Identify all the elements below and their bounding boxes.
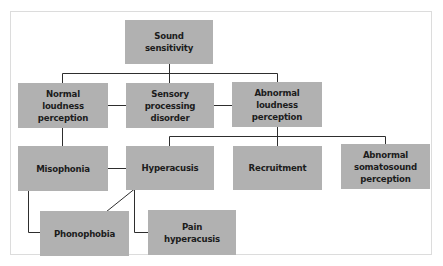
node-pain-hyperacusis: Pain hyperacusis — [148, 210, 236, 255]
node-label: Normal loudness perception — [38, 88, 88, 124]
node-label: Abnormal loudness perception — [252, 87, 302, 123]
node-normal-loudness-perception: Normal loudness perception — [18, 83, 108, 128]
node-label: Phonophobia — [54, 228, 115, 240]
node-sound-sensitivity: Sound sensitivity — [125, 20, 213, 64]
node-label: Recruitment — [249, 162, 307, 174]
node-misophonia: Misophonia — [18, 146, 108, 191]
node-recruitment: Recruitment — [233, 146, 322, 190]
node-abnormal-loudness-perception: Abnormal loudness perception — [232, 82, 322, 127]
node-hyperacusis: Hyperacusis — [126, 146, 214, 190]
node-sensory-processing-disorder: Sensory processing disorder — [126, 83, 214, 128]
node-label: Abnormal somatosound perception — [354, 149, 417, 185]
node-label: Sensory processing disorder — [145, 88, 196, 124]
node-phonophobia: Phonophobia — [40, 211, 129, 256]
node-label: Sound sensitivity — [145, 30, 193, 54]
node-label: Pain hyperacusis — [164, 221, 220, 245]
node-abnormal-somatosound-perception: Abnormal somatosound perception — [341, 144, 430, 189]
node-label: Misophonia — [36, 163, 90, 175]
node-label: Hyperacusis — [142, 162, 199, 174]
